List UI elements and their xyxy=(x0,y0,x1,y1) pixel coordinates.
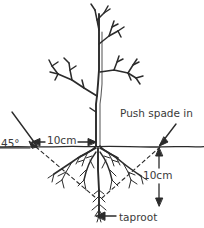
ground-line xyxy=(0,146,204,147)
angle-45-label: 45° xyxy=(1,138,20,149)
planting-diagram: Push spade in 45° 10cm 10cm taproot xyxy=(0,0,204,228)
horizontal-distance-label: 10cm xyxy=(47,135,76,146)
sapling-trunk xyxy=(96,14,102,146)
bare-branches xyxy=(49,4,143,112)
vertical-depth-label: 10cm xyxy=(143,170,172,181)
push-spade-in-label: Push spade in xyxy=(120,108,193,119)
spade-pointer-arrow xyxy=(160,124,177,146)
taproot-label: taproot xyxy=(119,212,157,223)
